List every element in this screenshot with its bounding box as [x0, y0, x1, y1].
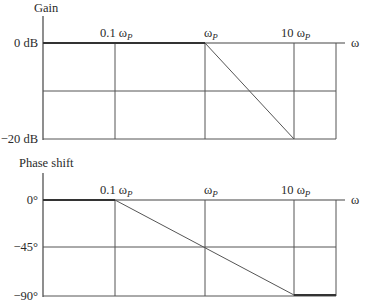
- gain-ylabel-minus20db: −20 dB: [1, 132, 38, 146]
- phase-axis-omega: ω: [351, 193, 359, 207]
- gain-title: Gain: [34, 1, 59, 15]
- phase-ylabel-minus90: −90°: [13, 289, 38, 303]
- gain-axis-omega: ω: [351, 36, 359, 50]
- bode-plot-diagram: Gain 0 dB −20 dB 0.1 ωP ωP 10 ωP ω Phase…: [0, 0, 373, 308]
- gain-ylabel-0db: 0 dB: [14, 36, 38, 50]
- phase-plot: Phase shift 0° −45° −90° 0.1 ωP ωP 10 ωP…: [13, 156, 359, 303]
- phase-xlabel-01wp: 0.1 ωP: [100, 183, 133, 199]
- gain-xlabel-wp: ωP: [204, 26, 218, 42]
- phase-ylabel-0: 0°: [27, 193, 38, 207]
- phase-xlabel-10wp: 10 ωP: [281, 183, 311, 199]
- gain-xlabel-01wp: 0.1 ωP: [100, 26, 133, 42]
- phase-xlabel-wp: ωP: [204, 183, 218, 199]
- gain-plot: Gain 0 dB −20 dB 0.1 ωP ωP 10 ωP ω: [1, 1, 360, 146]
- gain-xlabel-10wp: 10 ωP: [281, 26, 311, 42]
- phase-ylabel-minus45: −45°: [13, 240, 38, 254]
- phase-title: Phase shift: [19, 156, 74, 170]
